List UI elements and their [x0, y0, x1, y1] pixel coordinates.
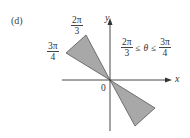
inequality-right-numerator: 3π [159, 37, 171, 48]
shaded-region-upper [66, 35, 110, 80]
inequality-variable: θ [144, 43, 149, 53]
y-axis-label: y [105, 12, 109, 23]
ray-label-3pi-4: 3π 4 [47, 41, 59, 62]
x-axis-label: x [175, 73, 179, 84]
inequality-left-fraction: 2π 3 [121, 37, 133, 58]
ray-label-3pi-4-numerator: 3π [47, 41, 59, 52]
origin-label: 0 [101, 83, 106, 93]
polar-region-diagram [0, 0, 190, 138]
inequality-right-fraction: 3π 4 [159, 37, 171, 58]
inequality-right-denominator: 4 [163, 48, 168, 58]
ray-label-2pi-3-numerator: 2π [71, 15, 83, 26]
shaded-region-lower [110, 80, 155, 126]
ray-label-3pi-4-denominator: 4 [50, 52, 55, 62]
inequality-operator-1: ≤ [135, 43, 142, 53]
inequality-left-numerator: 2π [121, 37, 133, 48]
ray-label-2pi-3: 2π 3 [71, 15, 83, 36]
inequality-label: 2π 3 ≤ θ ≤ 3π 4 [121, 37, 171, 58]
ray-label-2pi-3-denominator: 3 [74, 26, 79, 36]
inequality-left-denominator: 3 [124, 48, 129, 58]
inequality-operator-2: ≤ [150, 43, 157, 53]
x-axis-arrow-icon [165, 78, 172, 83]
